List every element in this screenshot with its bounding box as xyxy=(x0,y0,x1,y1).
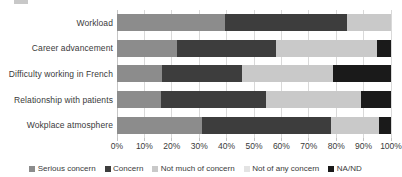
bar-row xyxy=(117,91,391,108)
bar-segment xyxy=(161,91,266,108)
bar-rows xyxy=(117,10,391,138)
x-tick-label: 0% xyxy=(111,141,123,151)
x-tick-label: 100% xyxy=(380,141,402,151)
bar-segment xyxy=(276,40,377,57)
x-tick-label: 50% xyxy=(245,141,262,151)
legend-label: Serious concern xyxy=(38,164,96,173)
x-tick-label: 20% xyxy=(163,141,180,151)
bar-row xyxy=(117,40,391,57)
legend-label: Concern xyxy=(113,164,143,173)
bar-segment xyxy=(117,40,177,57)
bar-segment xyxy=(266,91,361,108)
category-label: Difficulty working in French xyxy=(9,69,113,79)
plot-area xyxy=(117,10,391,138)
legend-item[interactable]: Not much of concern xyxy=(152,164,234,173)
legend-swatch-icon xyxy=(152,166,158,172)
legend-item[interactable]: Not of any concern xyxy=(244,164,320,173)
category-axis-labels: WorkloadCareer advancementDifficulty wor… xyxy=(0,10,113,138)
bar-segment xyxy=(225,14,347,31)
legend-item[interactable]: Concern xyxy=(105,164,144,173)
bar-segment xyxy=(117,65,162,82)
bar-segment xyxy=(242,65,334,82)
bar-segment xyxy=(177,40,276,57)
bar-row xyxy=(117,117,391,134)
legend-swatch-icon xyxy=(29,166,35,172)
cropped-artifact xyxy=(14,0,28,4)
bar-row xyxy=(117,65,391,82)
legend-item[interactable]: Serious concern xyxy=(29,164,95,173)
bar-segment xyxy=(361,91,391,108)
bar-segment xyxy=(117,14,225,31)
legend-label: NA/ND xyxy=(337,164,362,173)
legend-label: Not much of concern xyxy=(161,164,235,173)
legend-item[interactable]: NA/ND xyxy=(328,164,361,173)
legend-swatch-icon xyxy=(328,166,334,172)
x-tick-label: 60% xyxy=(273,141,290,151)
bar-segment xyxy=(202,117,331,134)
chart-legend: Serious concernConcernNot much of concer… xyxy=(0,164,391,177)
category-label: Career advancement xyxy=(32,43,113,53)
bar-segment xyxy=(331,117,379,134)
category-label: Wokplace atmosphere xyxy=(27,120,113,130)
category-label: Workload xyxy=(76,18,113,28)
bar-segment xyxy=(117,91,161,108)
x-axis: 0%10%20%30%40%50%60%70%80%90%100% xyxy=(117,138,391,152)
x-tick-label: 70% xyxy=(300,141,317,151)
bar-segment xyxy=(347,14,391,31)
bar-row xyxy=(117,14,391,31)
x-tick-label: 40% xyxy=(218,141,235,151)
x-tick-label: 10% xyxy=(136,141,153,151)
x-tick-label: 30% xyxy=(191,141,208,151)
bar-segment xyxy=(162,65,241,82)
bar-segment xyxy=(379,117,391,134)
bar-segment xyxy=(333,65,391,82)
legend-label: Not of any concern xyxy=(252,164,319,173)
x-tick-label: 80% xyxy=(328,141,345,151)
category-label: Relationship with patients xyxy=(14,95,113,105)
x-tick-label: 90% xyxy=(355,141,372,151)
bar-segment xyxy=(377,40,391,57)
legend-swatch-icon xyxy=(105,166,111,172)
bar-segment xyxy=(117,117,202,134)
legend-swatch-icon xyxy=(244,166,250,172)
